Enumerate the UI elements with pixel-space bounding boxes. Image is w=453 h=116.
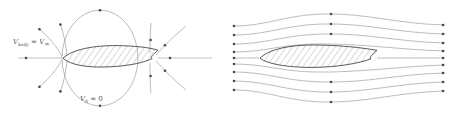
streamline-arrowhead — [233, 89, 236, 92]
panel-body-fixed-frame: Vbody = V∞ Vfl = 0 — [0, 0, 227, 116]
streamline-arrowhead — [442, 24, 445, 27]
streamline-arrowhead — [442, 64, 445, 67]
airfoil-body — [63, 46, 158, 67]
streamline — [156, 26, 186, 55]
streamline-arrowhead — [330, 81, 333, 84]
streamline-arrowhead — [330, 23, 333, 26]
streamline — [60, 23, 67, 55]
right-panel-canvas — [227, 0, 453, 116]
streamline-arrowhead — [233, 80, 236, 83]
streamline-arrowhead — [149, 75, 152, 78]
streamline — [233, 24, 445, 35]
streamline — [156, 61, 186, 90]
streamline-arrowhead — [164, 70, 167, 73]
streamline — [150, 63, 151, 93]
streamline-arrowhead — [442, 81, 445, 84]
streamline-arrowhead — [330, 13, 333, 16]
streamline-arrowhead — [164, 44, 167, 47]
streamline — [233, 34, 445, 44]
left-panel-canvas — [0, 0, 227, 116]
streamline — [233, 72, 445, 82]
streamline-arrowhead — [330, 33, 333, 36]
streamline-arrowhead — [233, 43, 236, 46]
streamline-arrowhead — [233, 51, 236, 54]
streamline-arrowhead — [442, 50, 445, 53]
streamline-arrowhead — [442, 57, 445, 60]
streamline-arrowhead — [38, 28, 41, 31]
streamline-arrowhead — [442, 42, 445, 45]
streamline-arrowhead — [442, 33, 445, 36]
streamline-arrowhead — [59, 23, 62, 26]
label-body-velocity-left: Vbody = V∞ — [13, 39, 50, 46]
streamline-arrowhead — [25, 57, 28, 60]
streamline-arrowhead — [233, 71, 236, 74]
streamline-arrowhead — [233, 63, 236, 66]
streamline-arrowhead — [330, 91, 333, 94]
streamline-arrowhead — [442, 72, 445, 75]
streamline-arrowhead — [99, 105, 102, 108]
streamline-arrowhead — [149, 39, 152, 42]
figure-container: Vbody = V∞ Vfl = 0 — [0, 0, 453, 116]
streamline-arrowhead — [38, 85, 41, 88]
streamline-arrowhead — [442, 90, 445, 93]
streamline-arrowhead — [99, 9, 102, 12]
streamline — [38, 60, 62, 88]
streamline-arrowhead — [233, 57, 236, 60]
streamline-arrowhead — [169, 57, 172, 60]
label-fluid-velocity-left: Vfl = 0 — [80, 96, 103, 103]
airfoil-body — [260, 45, 377, 67]
streamline-arrowhead — [233, 25, 236, 28]
streamline — [60, 61, 67, 93]
streamline-arrowhead — [330, 101, 333, 104]
streamline-arrowhead — [59, 90, 62, 93]
panel-fluid-fixed-frame: Vfl = V∞ Vbody = 0 — [227, 0, 453, 116]
streamline — [233, 81, 445, 92]
streamline-arrowhead — [233, 34, 236, 37]
